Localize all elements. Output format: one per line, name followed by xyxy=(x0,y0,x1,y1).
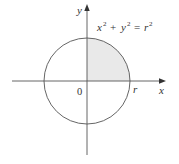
equation-r-exponent: 2 xyxy=(149,20,153,28)
x-axis-arrow-icon xyxy=(159,78,166,83)
equation-y-exponent: 2 xyxy=(127,20,131,28)
equation-y: y xyxy=(120,21,126,33)
x-axis-label: x xyxy=(158,84,164,96)
circle-quadrant-diagram: y x 0 r x 2 + y 2 = r 2 xyxy=(0,0,179,164)
equation-plus: + xyxy=(110,21,116,33)
y-axis-label: y xyxy=(76,4,82,16)
circle-equation: x 2 + y 2 = r 2 xyxy=(96,20,153,33)
equation-x-exponent: 2 xyxy=(103,20,107,28)
shaded-quadrant xyxy=(87,38,130,81)
radius-label: r xyxy=(133,83,138,95)
origin-label: 0 xyxy=(77,86,82,97)
equation-equals: = xyxy=(134,21,140,33)
equation-x: x xyxy=(96,21,102,33)
y-axis-arrow-icon xyxy=(84,4,89,11)
